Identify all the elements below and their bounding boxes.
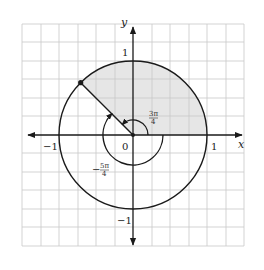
svg-text:4: 4 xyxy=(102,170,107,178)
tick-label-x-pos: 1 xyxy=(211,141,217,152)
negative-angle-label: − 5π 4 xyxy=(92,162,109,178)
terminal-point xyxy=(78,80,83,85)
unit-circle-diagram: x y −1 1 1 −1 0 3π 4 − 5π 4 xyxy=(0,0,264,270)
svg-text:4: 4 xyxy=(151,118,156,126)
y-axis-label: y xyxy=(120,16,128,29)
origin-point xyxy=(131,133,135,137)
tick-label-y-neg: −1 xyxy=(117,215,132,226)
x-axis-label: x xyxy=(238,138,245,151)
svg-text:5π: 5π xyxy=(100,162,109,170)
svg-text:3π: 3π xyxy=(149,110,158,118)
tick-label-x-neg: −1 xyxy=(43,141,58,152)
origin-label: 0 xyxy=(122,141,128,152)
tick-label-y-pos: 1 xyxy=(122,47,128,58)
